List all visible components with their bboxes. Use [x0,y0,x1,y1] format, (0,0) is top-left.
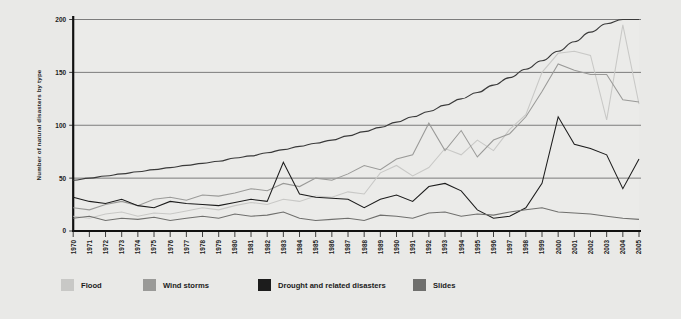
x-tick-label-2004: 2004 [619,240,626,255]
x-tick-label-1977: 1977 [183,240,190,255]
legend-swatch-wind-storms [143,279,156,291]
y-tick-label-0: 0 [63,227,67,234]
legend-swatch-slides [413,279,426,291]
x-tick-label-1989: 1989 [377,240,384,255]
x-tick-label-2003: 2003 [603,240,610,255]
y-tick-label-150: 150 [55,69,66,76]
legend-label-wind-storms: Wind storms [163,281,209,290]
y-axis-label: Number of natural disasters by type [35,69,42,180]
legend-swatch-drought-and-related-disasters [258,279,271,291]
x-tick-label-1996: 1996 [490,240,497,255]
x-tick-label-1986: 1986 [328,240,335,255]
x-tick-label-1985: 1985 [312,240,319,255]
x-tick-label-1978: 1978 [199,240,206,255]
x-tick-label-1997: 1997 [506,240,513,255]
x-tick-label-1974: 1974 [134,240,141,255]
x-tick-label-1993: 1993 [441,240,448,255]
x-tick-label-1970: 1970 [70,240,77,255]
legend-label-drought-and-related-disasters: Drought and related disasters [278,281,386,290]
x-tick-label-1995: 1995 [474,240,481,255]
x-tick-label-1975: 1975 [150,240,157,255]
x-tick-label-1976: 1976 [167,240,174,255]
x-tick-label-1980: 1980 [231,240,238,255]
x-tick-label-1990: 1990 [393,240,400,255]
x-tick-label-1972: 1972 [102,240,109,255]
chart-figure: 050100150200 197019711972197319741975197… [0,0,681,319]
x-tick-label-1979: 1979 [215,240,222,255]
x-tick-label-1971: 1971 [86,240,93,255]
y-tick-label-200: 200 [55,16,66,23]
legend-label-flood: Flood [81,281,102,290]
y-tick-label-50: 50 [59,175,67,182]
x-tick-label-1981: 1981 [247,240,254,255]
x-tick-label-1984: 1984 [296,240,303,255]
x-tick-label-2005: 2005 [635,240,642,255]
y-tick-label-100: 100 [55,122,66,129]
x-tick-label-1998: 1998 [522,240,529,255]
x-tick-label-1987: 1987 [344,240,351,255]
natural-disasters-line-chart: 050100150200 197019711972197319741975197… [0,0,681,319]
x-tick-label-2001: 2001 [571,240,578,255]
x-tick-label-1982: 1982 [264,240,271,255]
x-tick-label-1991: 1991 [409,240,416,255]
legend-swatch-flood [61,279,74,291]
x-tick-label-1988: 1988 [361,240,368,255]
x-tick-label-1992: 1992 [425,240,432,255]
x-tick-label-1983: 1983 [280,240,287,255]
x-tick-label-2000: 2000 [555,240,562,255]
legend-label-slides: Slides [433,281,455,290]
x-tick-label-1994: 1994 [458,240,465,255]
x-tick-label-1999: 1999 [538,240,545,255]
x-tick-label-2002: 2002 [587,240,594,255]
x-tick-label-1973: 1973 [118,240,125,255]
